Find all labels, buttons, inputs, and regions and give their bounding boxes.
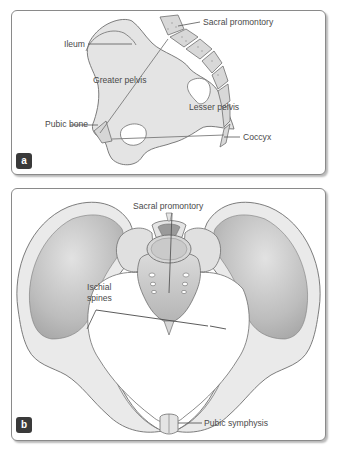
label-sacral-promontory-a: Sacral promontory bbox=[203, 17, 273, 27]
label-lesser-pelvis: Lesser pelvis bbox=[189, 102, 239, 112]
label-pubic-symphysis: Pubic symphysis bbox=[204, 418, 268, 428]
panel-a-lateral-pelvis: Sacral promontory Ileum Greater pelvis L… bbox=[11, 10, 326, 175]
pelvis-superior-illustration bbox=[12, 189, 325, 440]
panel-b-superior-pelvis: Sacral promontory Ischial spines Pubic s… bbox=[11, 188, 326, 441]
label-ischial-spines-line2: spines bbox=[87, 293, 112, 303]
label-pubic-bone: Pubic bone bbox=[45, 119, 88, 129]
label-ischial-spines-line1: Ischial bbox=[87, 282, 111, 292]
label-coccyx: Coccyx bbox=[243, 132, 271, 142]
label-ileum: Ileum bbox=[64, 39, 85, 49]
label-greater-pelvis: Greater pelvis bbox=[93, 75, 147, 85]
panel-badge-b: b bbox=[16, 417, 32, 433]
label-sacral-promontory-b: Sacral promontory bbox=[133, 201, 203, 211]
panel-badge-a: a bbox=[16, 153, 32, 169]
pelvis-lateral-illustration bbox=[12, 11, 325, 174]
